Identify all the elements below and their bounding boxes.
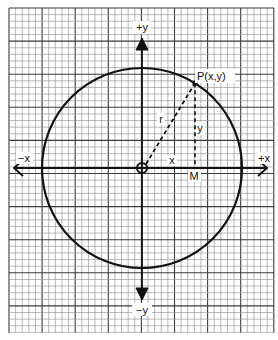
- radius-label: r: [159, 113, 163, 125]
- point-p-label: P(x,y): [197, 70, 226, 82]
- circle-diagram: +y −y −x +x P(x,y) r y x: [0, 0, 278, 340]
- vertical-segment-label: y: [197, 122, 203, 134]
- arrow-negative-y-icon: [136, 288, 148, 300]
- label-radius: r: [157, 113, 165, 125]
- negative-x-label: −x: [18, 152, 30, 164]
- label-horizontal-x: x: [167, 154, 177, 166]
- label-point-p: P(x,y): [195, 69, 235, 83]
- horizontal-segment-label: x: [169, 154, 175, 166]
- label-positive-x: +x: [255, 152, 273, 164]
- label-foot-m: M: [188, 170, 201, 182]
- positive-x-label: +x: [258, 152, 270, 164]
- negative-y-label: −y: [136, 304, 148, 316]
- label-negative-x: −x: [16, 152, 33, 164]
- arrow-positive-y-icon: [136, 38, 148, 50]
- foot-point-label: M: [189, 170, 198, 182]
- label-negative-y: −y: [132, 303, 152, 316]
- positive-y-label: +y: [136, 21, 148, 33]
- label-vertical-y: y: [196, 122, 205, 135]
- label-positive-y: +y: [133, 21, 151, 34]
